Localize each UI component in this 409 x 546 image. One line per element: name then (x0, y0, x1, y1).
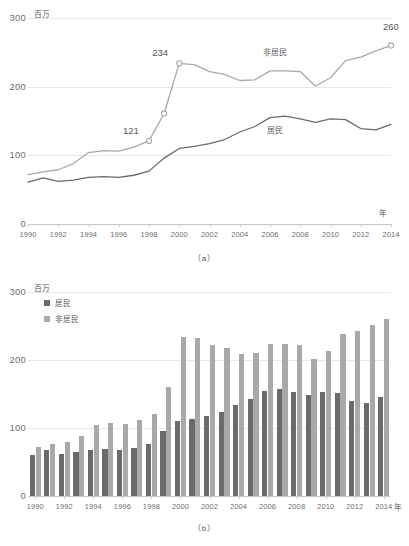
line-series-nonresidents (28, 45, 391, 174)
bar-nonresidents (297, 345, 302, 496)
x-tick-label: 2004 (227, 230, 253, 239)
bar-nonresidents (36, 447, 41, 496)
bar-residents (306, 395, 311, 496)
x-tick-label: 2006 (257, 230, 283, 239)
line-series-residents (28, 116, 391, 182)
bar-nonresidents (370, 325, 375, 496)
bar-residents (59, 454, 64, 496)
bar-residents (88, 450, 93, 496)
bar-residents (335, 393, 340, 496)
x-tick-mark (210, 224, 211, 227)
x-tick-mark (239, 496, 240, 499)
x-tick-mark (240, 224, 241, 227)
bar-residents (262, 391, 267, 496)
bar-nonresidents (268, 344, 273, 496)
x-tick-label: 2012 (348, 230, 374, 239)
x-tick-label: 1994 (80, 502, 106, 511)
y-tick-label: 300 (0, 286, 26, 297)
line-point-value-label: 121 (123, 125, 139, 136)
x-tick-label: 2014 (371, 502, 397, 511)
x-tick-mark (384, 496, 385, 499)
bar-nonresidents (181, 337, 186, 496)
x-tick-mark (35, 496, 36, 499)
x-tick-label: 1992 (45, 230, 71, 239)
bar-nonresidents (311, 359, 316, 496)
x-tick-label: 1996 (109, 502, 135, 511)
bar-nonresidents (355, 331, 360, 496)
bar-residents (320, 392, 325, 496)
bar-nonresidents (152, 414, 157, 496)
bar-residents (175, 421, 180, 496)
bar-nonresidents (340, 334, 345, 496)
x-tick-mark (151, 496, 152, 499)
x-tick-label: 1998 (136, 230, 162, 239)
x-tick-mark (58, 224, 59, 227)
line-data-point-marker (388, 43, 393, 48)
x-tick-mark (268, 496, 269, 499)
bar-residents (73, 452, 78, 496)
bar-nonresidents (137, 420, 142, 496)
bar-nonresidents (79, 436, 84, 496)
x-tick-mark (122, 496, 123, 499)
x-tick-label: 2002 (197, 502, 223, 511)
x-tick-mark (355, 496, 356, 499)
line-data-point-marker (177, 61, 182, 66)
bar-nonresidents (253, 353, 258, 496)
bar-residents (349, 401, 354, 496)
x-tick-mark (119, 224, 120, 227)
x-tick-mark (149, 224, 150, 227)
line-point-value-label: 260 (383, 21, 399, 32)
x-tick-mark (93, 496, 94, 499)
x-tick-mark (179, 224, 180, 227)
x-tick-label: 2008 (284, 502, 310, 511)
x-tick-label: 2008 (287, 230, 313, 239)
bar-residents (189, 419, 194, 496)
x-tick-label: 2012 (342, 502, 368, 511)
x-tick-label: 1998 (138, 502, 164, 511)
bar-nonresidents (166, 387, 171, 496)
x-tick-label: 2014 (378, 230, 404, 239)
x-tick-mark (180, 496, 181, 499)
series-inline-label-residents: 居民 (267, 124, 283, 135)
line-data-point-marker (146, 138, 151, 143)
bar-group-container (28, 292, 391, 496)
bar-residents (146, 444, 151, 496)
bar-nonresidents (282, 344, 287, 496)
x-tick-label: 1990 (15, 230, 41, 239)
x-tick-mark (89, 224, 90, 227)
bar-residents (102, 449, 107, 496)
bar-nonresidents (195, 338, 200, 496)
x-tick-mark (300, 224, 301, 227)
x-axis-name-a: 年 (379, 207, 387, 218)
line-point-value-label: 234 (152, 47, 168, 58)
x-tick-label: 2006 (255, 502, 281, 511)
bar-residents (233, 405, 238, 496)
x-tick-label: 2010 (318, 230, 344, 239)
line-data-point-marker (162, 111, 167, 116)
bar-nonresidents (94, 425, 99, 496)
x-tick-mark (28, 224, 29, 227)
x-tick-label: 2004 (226, 502, 252, 511)
x-tick-label: 1990 (22, 502, 48, 511)
bar-residents (364, 403, 369, 496)
bar-nonresidents (239, 354, 244, 496)
bar-residents (131, 448, 136, 496)
bar-residents (30, 455, 35, 496)
x-tick-mark (297, 496, 298, 499)
x-tick-label: 1996 (106, 230, 132, 239)
x-tick-mark (391, 224, 392, 227)
bar-residents (248, 399, 253, 496)
bar-residents (117, 450, 122, 496)
bar-nonresidents (123, 424, 128, 496)
y-tick-label: 100 (0, 422, 26, 433)
bar-nonresidents (108, 423, 113, 496)
bar-nonresidents (65, 442, 70, 496)
line-chart-panel: 百万 0100200300 121234260 非居民居民 1990199219… (0, 0, 409, 273)
x-tick-label: 2010 (313, 502, 339, 511)
bar-nonresidents (384, 319, 389, 496)
x-tick-label: 2000 (166, 230, 192, 239)
x-tick-mark (331, 224, 332, 227)
bar-nonresidents (210, 345, 215, 496)
bar-residents (44, 450, 49, 496)
series-inline-label-nonresidents: 非居民 (263, 46, 287, 57)
